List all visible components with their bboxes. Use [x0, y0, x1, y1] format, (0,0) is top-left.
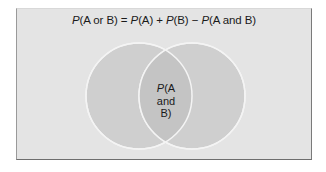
- intersection-label-line2: and B): [151, 95, 181, 120]
- intersection-label-line1: P(A: [151, 82, 181, 95]
- venn-diagram-panel: P(A or B) = P(A) + P(B) − P(A and B) P(A…: [16, 8, 312, 160]
- intersection-label: P(A and B): [151, 82, 181, 120]
- intersection-label-text1: (A: [164, 82, 175, 94]
